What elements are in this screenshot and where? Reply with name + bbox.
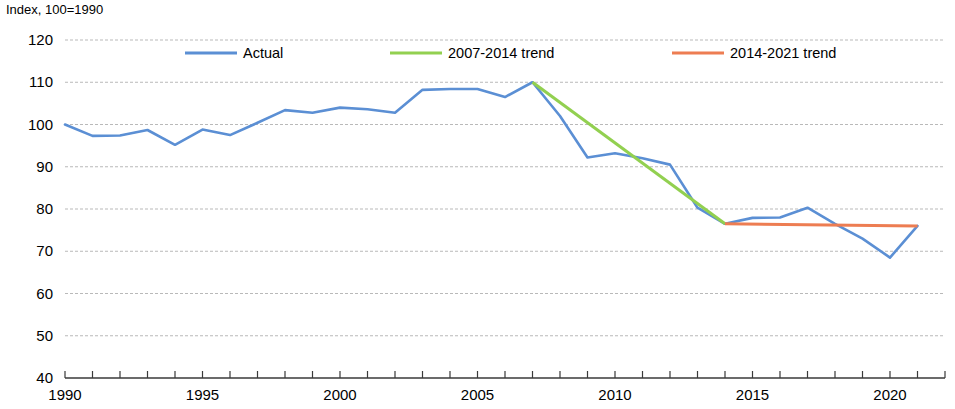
x-axis-tick-label: 2015 [736,386,769,403]
x-axis-tick-label: 1995 [186,386,219,403]
data-series [65,82,918,257]
y-axis-tick-label: 40 [36,369,53,386]
x-axis [65,371,945,378]
line-chart: 405060708090100110120 199019952000200520… [0,0,955,409]
series-line-2014-2021-trend [725,224,918,226]
y-axis-tick-label: 80 [36,200,53,217]
series-line-actual [65,82,918,257]
x-axis-tick-label: 2000 [323,386,356,403]
x-axis-tick-label: 1990 [48,386,81,403]
x-axis-tick-label: 2020 [873,386,906,403]
legend-label-actual: Actual [243,45,283,61]
chart-container: Index, 100=1990 405060708090100110120 19… [0,0,955,409]
y-axis-tick-label: 90 [36,158,53,175]
legend-label-2007-2014-trend: 2007-2014 trend [448,45,554,61]
series-line-2007-2014-trend [533,82,726,224]
x-axis-tick-labels: 1990199520002005201020152020 [48,386,906,403]
y-axis-tick-label: 60 [36,285,53,302]
gridlines [65,40,945,336]
x-axis-tick-label: 2010 [598,386,631,403]
y-axis-tick-label: 100 [28,116,53,133]
y-axis-tick-label: 70 [36,242,53,259]
y-axis-tick-label: 110 [29,73,53,90]
chart-legend: Actual2007-2014 trend2014-2021 trend [185,45,836,61]
y-axis-tick-label: 120 [28,31,53,48]
x-axis-tick-label: 2005 [461,386,494,403]
legend-label-2014-2021-trend: 2014-2021 trend [730,45,836,61]
y-axis-tick-label: 50 [36,327,53,344]
y-axis-tick-labels: 405060708090100110120 [28,31,53,386]
